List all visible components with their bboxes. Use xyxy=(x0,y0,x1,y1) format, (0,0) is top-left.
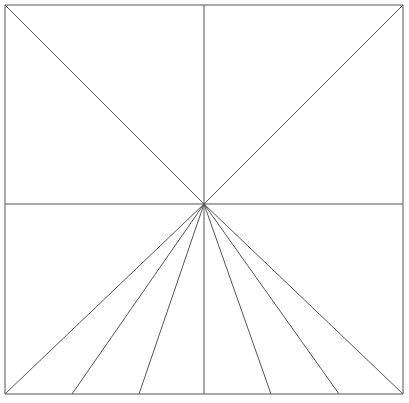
figure-canvas xyxy=(0,0,409,403)
geometric-line-figure xyxy=(0,0,409,403)
